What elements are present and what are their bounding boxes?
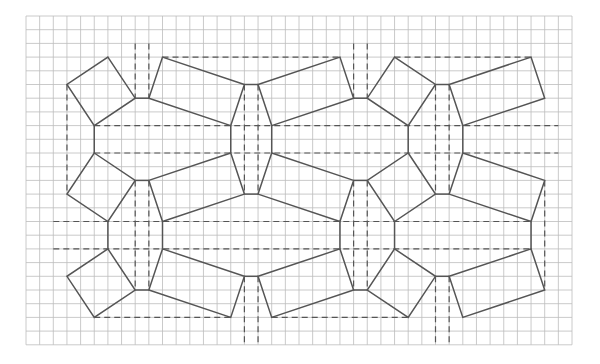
tessellation-diagram [0,0,600,364]
square-tile [367,57,435,126]
rectangle-tile [149,153,245,222]
square-tiles [67,57,436,317]
grid-lines [26,16,572,345]
rectangle-tile [149,57,245,126]
rectangle-tile [449,249,545,318]
square-tile [367,249,435,318]
rectangle-tile [258,57,354,126]
rectangle-tile [258,153,354,222]
rectangle-tiles [149,57,545,317]
square-tile [67,249,135,318]
rectangle-tile [449,153,545,222]
square-tile [367,153,435,222]
rectangle-tile [449,57,545,126]
rectangle-tile [149,249,245,318]
square-tile [67,57,135,126]
rectangle-tile [258,249,354,318]
square-tile [67,153,135,222]
